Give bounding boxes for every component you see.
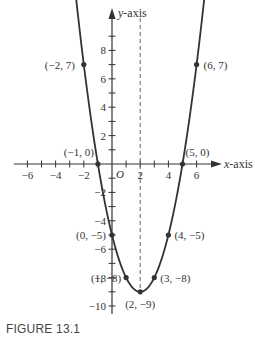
x-tick-label: 6 — [194, 169, 200, 181]
axes: −6−4−22468642−2−4−6−8−10Ox-axisy-axis — [14, 6, 253, 314]
data-point — [124, 275, 129, 280]
figure-caption: FIGURE 13.1 — [6, 322, 80, 336]
y-axis-label: y-axis — [117, 6, 147, 20]
y-tick-label: 2 — [101, 130, 107, 142]
x-tick-label: −6 — [22, 169, 34, 181]
y-tick-label: −6 — [94, 243, 106, 255]
data-points: (−2, 7)(−1, 0)(0, −5)(1, −8)(2, −9)(3, −… — [45, 59, 228, 311]
y-tick-label: 8 — [101, 44, 107, 56]
y-axis-arrow-icon — [109, 8, 116, 19]
point-label: (0, −5) — [76, 229, 106, 242]
point-label: (1, −8) — [91, 272, 121, 285]
parabola-chart: −6−4−22468642−2−4−6−8−10Ox-axisy-axis (−… — [0, 0, 255, 342]
y-tick-label: 6 — [101, 73, 107, 85]
point-label: (4, −5) — [174, 229, 204, 242]
point-label: (2, −9) — [125, 298, 155, 311]
origin-label: O — [116, 168, 124, 180]
x-tick-label: −4 — [50, 169, 62, 181]
data-point — [109, 232, 114, 237]
x-tick-label: −2 — [78, 169, 90, 181]
x-axis-arrow-icon — [211, 161, 222, 168]
y-tick-label: −10 — [89, 300, 107, 312]
point-label: (6, 7) — [204, 59, 228, 72]
data-point — [152, 275, 157, 280]
y-tick-label: −4 — [94, 215, 106, 227]
point-label: (3, −8) — [160, 272, 190, 285]
data-point — [81, 62, 86, 67]
data-point — [166, 232, 171, 237]
data-point — [194, 62, 199, 67]
data-point — [138, 289, 143, 294]
point-label: (−1, 0) — [64, 146, 94, 159]
point-label: (−2, 7) — [45, 59, 75, 72]
x-tick-label: 4 — [166, 169, 172, 181]
y-tick-label: 4 — [101, 101, 107, 113]
data-point — [95, 161, 100, 166]
point-label: (5, 0) — [186, 146, 210, 159]
data-point — [180, 161, 185, 166]
x-axis-label: x-axis — [223, 157, 253, 171]
